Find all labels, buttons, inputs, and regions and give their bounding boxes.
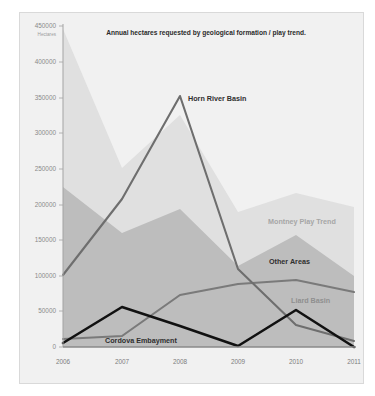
series-label-other-areas: Other Areas — [269, 257, 310, 266]
x-tick-label-2006: 2006 — [56, 358, 71, 365]
chart-title: Annual hectares requested by geological … — [106, 29, 306, 37]
series-label-horn-river-basin: Horn River Basin — [188, 94, 246, 103]
series-label-liard-basin: Liard Basin — [291, 296, 330, 305]
y-axis-ticks — [59, 26, 63, 347]
chart-plot-area: 450000 Hectares 400000 350000 300000 250… — [0, 0, 375, 396]
series-label-montney-play-trend: Montney Play Trend — [268, 217, 336, 226]
x-tick-label-2010: 2010 — [289, 358, 304, 365]
y-tick-label-350000: 350000 — [35, 94, 57, 101]
x-tick-label-2009: 2009 — [231, 358, 246, 365]
y-tick-label-300000: 300000 — [35, 129, 57, 136]
x-tick-label-2011: 2011 — [347, 358, 361, 365]
y-tick-label-100000: 100000 — [35, 272, 57, 279]
y-axis-units-label: Hectares — [38, 32, 57, 37]
y-tick-label-200000: 200000 — [35, 201, 57, 208]
chart-root: 450000 Hectares 400000 350000 300000 250… — [0, 0, 375, 396]
y-tick-label-50000: 50000 — [38, 307, 56, 314]
y-tick-label-150000: 150000 — [35, 236, 57, 243]
y-tick-label-400000: 400000 — [35, 58, 57, 65]
y-tick-label-0: 0 — [52, 343, 56, 350]
series-label-cordova-embayment: Cordova Embayment — [105, 336, 177, 345]
x-tick-label-2007: 2007 — [115, 358, 130, 365]
chart-svg: 450000 Hectares 400000 350000 300000 250… — [0, 0, 375, 396]
y-tick-label-250000: 250000 — [35, 165, 57, 172]
y-tick-label-450000: 450000 — [35, 22, 57, 29]
x-tick-label-2008: 2008 — [173, 358, 188, 365]
